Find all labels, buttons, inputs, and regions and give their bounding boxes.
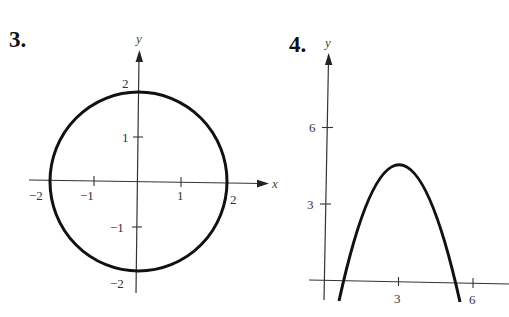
y-axis-arrow-icon (136, 50, 143, 62)
graph-4: y 6 3 3 6 (307, 35, 509, 307)
x-tick-label: 3 (394, 291, 401, 306)
y-axis (324, 60, 329, 300)
x-tick-label: 2 (230, 192, 237, 207)
y-axis-label: y (134, 31, 142, 46)
x-tick-label: −1 (80, 188, 94, 203)
y-tick-label: 3 (307, 197, 314, 212)
y-tick-label: −2 (110, 276, 124, 291)
y-axis-arrow-icon (325, 53, 332, 65)
x-axis-label: x (271, 176, 278, 191)
y-tick-label: 6 (309, 120, 316, 135)
y-axis-label: y (323, 35, 331, 50)
x-tick-label: −2 (29, 188, 43, 203)
graphs-canvas: x y −2 −1 1 2 2 1 −1 −2 y (0, 0, 509, 317)
x-axis (309, 280, 509, 284)
x-tick-label: 6 (469, 292, 476, 307)
y-tick-label: −1 (110, 220, 124, 235)
y-tick-label: 1 (122, 130, 129, 145)
x-tick-label: 1 (177, 188, 184, 203)
x-axis-arrow-icon (257, 180, 269, 188)
graph-3: x y −2 −1 1 2 2 1 −1 −2 (29, 31, 278, 293)
y-tick-label: 2 (122, 76, 129, 91)
